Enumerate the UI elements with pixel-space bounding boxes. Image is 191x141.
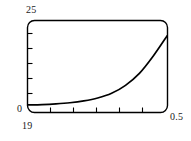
x-axis-min-label: 19 [22, 121, 32, 131]
y-axis-min-label: 0 [17, 104, 22, 114]
plot-figure: 25 0 19 0.5 [0, 0, 191, 141]
x-axis-max-label: 0.5 [170, 112, 183, 122]
y-axis-max-label: 25 [26, 5, 36, 15]
